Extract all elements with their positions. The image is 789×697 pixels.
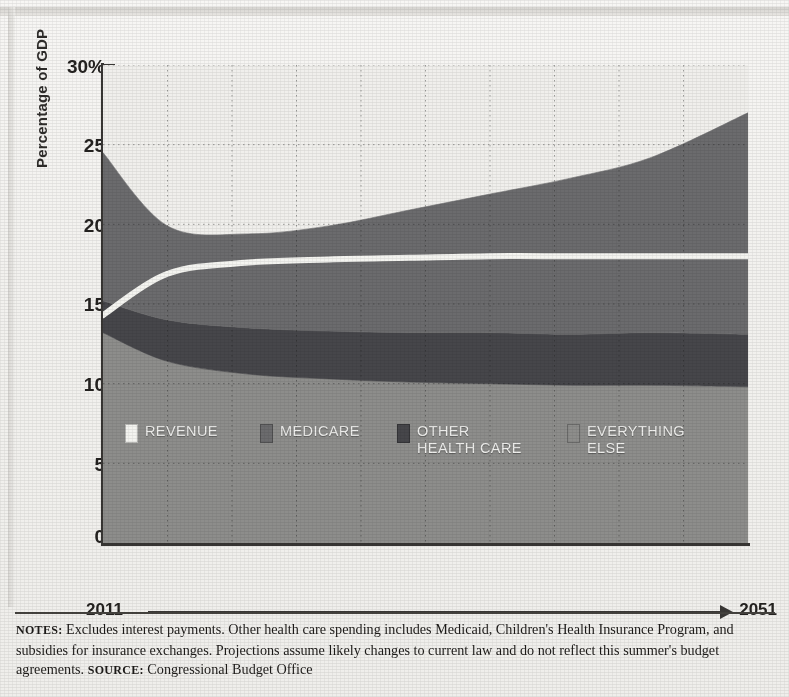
x-axis-line: [101, 543, 750, 546]
legend-label-medicare: MEDICARE: [280, 423, 360, 439]
y-tick-15: 15: [53, 294, 105, 316]
y-tick-30: 30%: [53, 56, 105, 78]
footer-divider: [15, 612, 775, 614]
y-tick-25: 25: [53, 135, 105, 157]
legend-label-else: ELSE: [587, 440, 626, 456]
legend-item-medicare: MEDICARE: [260, 423, 397, 443]
y-tick-10: 10: [53, 374, 105, 396]
legend-item-everything-else: EVERYTHING ELSE: [567, 423, 685, 457]
y-tick-0: 0: [53, 526, 105, 548]
notes-kicker: NOTES:: [16, 623, 62, 637]
legend-swatch-medicare: [260, 424, 273, 443]
legend-swatch-everything-else: [567, 424, 580, 443]
y-tick-5: 5: [53, 454, 105, 476]
legend-label-everything: EVERYTHING: [587, 423, 685, 439]
chart-legend: REVENUE MEDICARE OTHER HEALTH CARE EVERY…: [125, 423, 685, 493]
x-axis-start-year: 2011: [86, 600, 123, 620]
legend-swatch-revenue: [125, 424, 138, 443]
legend-label-revenue: REVENUE: [145, 423, 218, 439]
scan-top-edge: [0, 7, 789, 16]
legend-label-health-care: HEALTH CARE: [417, 440, 522, 456]
legend-item-revenue: REVENUE: [125, 423, 260, 443]
source-text: Congressional Budget Office: [144, 661, 313, 677]
chart-figure: Percentage of GDP 30% 25 20 15 10 5 0 RE…: [15, 18, 775, 608]
legend-swatch-other-health-care: [397, 424, 410, 443]
source-kicker: SOURCE:: [88, 663, 144, 677]
y-axis-tick-labels: 30% 25 20 15 10 5 0: [45, 18, 105, 578]
scan-left-edge: [8, 7, 15, 607]
x-axis-end-year: 2051: [739, 600, 777, 620]
legend-label-other: OTHER: [417, 423, 470, 439]
y-tick-20: 20: [53, 215, 105, 237]
legend-item-other-health-care: OTHER HEALTH CARE: [397, 423, 567, 457]
footer-notes: NOTES: Excludes interest payments. Other…: [16, 620, 778, 681]
